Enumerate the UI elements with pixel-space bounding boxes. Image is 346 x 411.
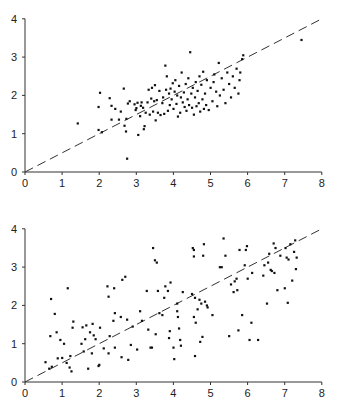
data-point bbox=[185, 110, 187, 112]
y-tick-label: 3 bbox=[11, 261, 17, 273]
data-point bbox=[92, 323, 94, 325]
data-point bbox=[157, 290, 159, 292]
data-point bbox=[169, 88, 171, 90]
data-point bbox=[287, 302, 289, 304]
data-point bbox=[148, 89, 150, 91]
data-point bbox=[287, 258, 289, 260]
data-point bbox=[143, 128, 145, 130]
x-tick-label: 1 bbox=[59, 177, 65, 189]
data-point bbox=[163, 297, 165, 299]
data-point bbox=[66, 362, 68, 364]
data-point bbox=[198, 102, 200, 104]
data-point bbox=[99, 92, 101, 94]
data-point bbox=[271, 270, 273, 272]
data-point bbox=[143, 125, 145, 127]
data-point bbox=[152, 247, 154, 249]
x-tick-label: 8 bbox=[319, 387, 325, 399]
data-point bbox=[161, 102, 163, 104]
data-point bbox=[194, 355, 196, 357]
data-point bbox=[291, 280, 293, 282]
data-point bbox=[199, 110, 201, 112]
data-point bbox=[152, 110, 154, 112]
data-point bbox=[193, 114, 195, 116]
data-point bbox=[197, 308, 199, 310]
data-point bbox=[107, 352, 109, 354]
data-point bbox=[213, 73, 215, 75]
x-tick-label: 6 bbox=[245, 177, 251, 189]
data-point bbox=[89, 331, 91, 333]
data-point bbox=[97, 129, 99, 131]
data-point bbox=[71, 327, 73, 329]
data-point bbox=[198, 75, 200, 77]
data-point bbox=[274, 247, 276, 249]
data-point bbox=[224, 102, 226, 104]
data-point bbox=[158, 90, 160, 92]
data-point bbox=[70, 370, 72, 372]
reference-line-dashed bbox=[25, 19, 322, 172]
data-point bbox=[155, 119, 157, 121]
data-point bbox=[192, 247, 194, 249]
data-point bbox=[67, 287, 69, 289]
data-point bbox=[69, 355, 71, 357]
data-point bbox=[146, 290, 148, 292]
data-point bbox=[187, 77, 189, 79]
x-tick-label: 0 bbox=[22, 387, 28, 399]
data-point bbox=[206, 79, 208, 81]
data-point bbox=[123, 125, 125, 127]
data-point bbox=[99, 327, 101, 329]
data-point bbox=[163, 113, 165, 115]
data-point bbox=[250, 322, 252, 324]
data-point bbox=[289, 243, 291, 245]
data-point bbox=[188, 104, 190, 106]
data-point bbox=[129, 100, 131, 102]
data-point bbox=[201, 336, 203, 338]
data-point bbox=[120, 356, 122, 358]
data-point bbox=[232, 75, 234, 77]
data-point bbox=[198, 299, 200, 301]
data-point bbox=[157, 112, 159, 114]
data-point bbox=[167, 290, 169, 292]
data-point bbox=[200, 84, 202, 86]
data-point bbox=[113, 287, 115, 289]
data-point bbox=[233, 291, 235, 293]
data-point bbox=[125, 118, 127, 120]
data-points bbox=[77, 39, 303, 160]
x-tick-label: 5 bbox=[207, 387, 213, 399]
data-point bbox=[237, 92, 239, 94]
x-tick-label: 6 bbox=[245, 387, 251, 399]
data-point bbox=[147, 329, 149, 331]
data-point bbox=[176, 310, 178, 312]
data-point bbox=[241, 58, 243, 60]
x-tick-label: 4 bbox=[170, 177, 176, 189]
data-point bbox=[185, 83, 187, 85]
y-tick-label: 4 bbox=[11, 13, 17, 25]
data-point bbox=[200, 302, 202, 304]
data-point bbox=[211, 314, 213, 316]
data-point bbox=[140, 101, 142, 103]
data-point bbox=[182, 291, 184, 293]
data-point bbox=[110, 119, 112, 121]
data-point bbox=[181, 71, 183, 73]
data-point bbox=[228, 335, 230, 337]
x-tick-label: 3 bbox=[133, 177, 139, 189]
data-point bbox=[195, 322, 197, 324]
data-point bbox=[262, 275, 264, 277]
data-point bbox=[266, 302, 268, 304]
data-point bbox=[293, 251, 295, 253]
data-point bbox=[51, 366, 53, 368]
data-point bbox=[125, 130, 127, 132]
data-point bbox=[199, 341, 201, 343]
data-point bbox=[153, 100, 155, 102]
scatter-plot-top-canvas: 01234567801234 bbox=[0, 0, 346, 205]
y-tick-label: 3 bbox=[11, 51, 17, 63]
data-point bbox=[168, 92, 170, 94]
data-point bbox=[151, 87, 153, 89]
data-point bbox=[146, 101, 148, 103]
data-point bbox=[158, 312, 160, 314]
data-point bbox=[48, 368, 50, 370]
data-point bbox=[50, 298, 52, 300]
data-point bbox=[159, 114, 161, 116]
data-point bbox=[175, 103, 177, 105]
y-tick-label: 1 bbox=[11, 338, 17, 350]
data-point bbox=[162, 96, 164, 98]
